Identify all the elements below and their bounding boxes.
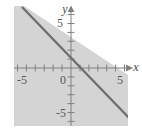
y-tick-label-5: 5 [57,16,63,30]
coordinate-plane-chart: y x -5 5 0 5 -5 [0,0,142,129]
y-tick-label-minus5: -5 [56,106,66,120]
y-axis-label: y [61,2,68,16]
x-tick-label-5: 5 [117,73,123,87]
x-axis-label: x [132,60,139,74]
graph-figure: y x -5 5 0 5 -5 [0,0,142,129]
origin-label: 0 [60,73,66,87]
x-tick-label-minus5: -5 [17,73,27,87]
